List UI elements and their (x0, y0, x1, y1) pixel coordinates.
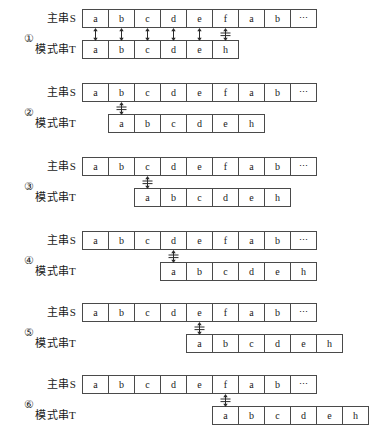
main-string-cell: a (83, 158, 109, 175)
main-string-cell: d (161, 232, 187, 249)
main-string-label: 主串S (14, 231, 76, 250)
main-string-cell: b (109, 232, 135, 249)
mismatch-arrow-icon (167, 250, 180, 263)
main-string-cell: d (161, 376, 187, 393)
main-string-cell: c (135, 304, 161, 321)
main-string-cell: a (83, 304, 109, 321)
pattern-string-cell: e (213, 115, 239, 132)
pattern-string-cell: e (291, 335, 317, 352)
pattern-string-cell: b (213, 335, 239, 352)
main-string-cell: d (161, 304, 187, 321)
main-string-cell: a (239, 158, 265, 175)
main-string-strip: abcdefab⋯ (82, 231, 317, 250)
pattern-string-cell: c (135, 41, 161, 58)
main-string-label: 主串S (14, 375, 76, 394)
main-string-strip: abcdefab⋯ (82, 9, 317, 28)
pattern-string-label: 模式串T (14, 114, 76, 133)
matching-step: ⑤主串S模式串Tabcdefab⋯abcdeh (0, 296, 364, 370)
main-string-cell: b (265, 232, 291, 249)
main-string-cell: ⋯ (291, 158, 317, 175)
pattern-string-cell: d (291, 407, 317, 424)
match-arrow-icon (167, 28, 180, 41)
matching-step: ④主串S模式串Tabcdefab⋯abcdeh (0, 224, 364, 298)
main-string-cell: c (135, 10, 161, 27)
pattern-string-cell: b (161, 189, 187, 206)
main-string-cell: a (83, 376, 109, 393)
main-string-cell: b (265, 304, 291, 321)
match-arrow-icon (89, 28, 102, 41)
match-arrow-icon (115, 28, 128, 41)
pattern-string-cell: h (213, 41, 239, 58)
pattern-string-cell: a (187, 335, 213, 352)
pattern-string-cell: d (265, 335, 291, 352)
pattern-string-cell: b (135, 115, 161, 132)
main-string-cell: ⋯ (291, 376, 317, 393)
main-string-cell: b (265, 84, 291, 101)
main-string-cell: f (213, 232, 239, 249)
main-string-strip: abcdefab⋯ (82, 157, 317, 176)
pattern-string-cell: e (187, 41, 213, 58)
main-string-cell: a (83, 232, 109, 249)
pattern-string-label: 模式串T (14, 188, 76, 207)
pattern-string-strip: abcdeh (160, 262, 317, 281)
main-string-cell: c (135, 84, 161, 101)
matching-step: ①主串S模式串Tabcdefab⋯abcdeh (0, 2, 364, 76)
mismatch-arrow-icon (141, 176, 154, 189)
pattern-string-cell: e (265, 263, 291, 280)
main-string-cell: e (187, 84, 213, 101)
main-string-cell: e (187, 232, 213, 249)
mismatch-arrow-icon (219, 394, 232, 407)
pattern-string-cell: h (291, 263, 317, 280)
main-string-strip: abcdefab⋯ (82, 303, 317, 322)
matching-step: ③主串S模式串Tabcdefab⋯abcdeh (0, 150, 364, 224)
pattern-string-cell: h (265, 189, 291, 206)
main-string-cell: c (135, 232, 161, 249)
pattern-string-cell: b (239, 407, 265, 424)
main-string-cell: a (239, 304, 265, 321)
main-string-cell: ⋯ (291, 10, 317, 27)
matching-step: ②主串S模式串Tabcdefab⋯abcdeh (0, 76, 364, 150)
main-string-cell: c (135, 158, 161, 175)
pattern-string-cell: b (187, 263, 213, 280)
main-string-cell: f (213, 376, 239, 393)
main-string-cell: e (187, 376, 213, 393)
pattern-string-cell: h (343, 407, 369, 424)
main-string-cell: e (187, 10, 213, 27)
main-string-strip: abcdefab⋯ (82, 83, 317, 102)
pattern-string-label: 模式串T (14, 406, 76, 425)
mismatch-arrow-icon (193, 322, 206, 335)
main-string-cell: e (187, 304, 213, 321)
pattern-string-cell: c (213, 263, 239, 280)
pattern-string-cell: d (161, 41, 187, 58)
pattern-string-strip: abcdeh (108, 114, 265, 133)
pattern-string-cell: d (239, 263, 265, 280)
main-string-label: 主串S (14, 157, 76, 176)
main-string-strip: abcdefab⋯ (82, 375, 317, 394)
pattern-string-cell: e (317, 407, 343, 424)
matching-step: ⑥主串S模式串Tabcdefab⋯abcdeh (0, 368, 364, 441)
main-string-cell: d (161, 158, 187, 175)
pattern-string-label: 模式串T (14, 334, 76, 353)
pattern-string-cell: b (109, 41, 135, 58)
main-string-cell: a (83, 84, 109, 101)
pattern-string-cell: c (187, 189, 213, 206)
main-string-cell: ⋯ (291, 84, 317, 101)
pattern-string-strip: abcdeh (212, 406, 369, 425)
pattern-string-strip: abcdeh (134, 188, 291, 207)
pattern-string-cell: c (265, 407, 291, 424)
main-string-cell: ⋯ (291, 232, 317, 249)
pattern-string-cell: a (161, 263, 187, 280)
pattern-string-cell: d (213, 189, 239, 206)
pattern-string-cell: a (83, 41, 109, 58)
main-string-cell: a (83, 10, 109, 27)
main-string-cell: b (109, 304, 135, 321)
main-string-label: 主串S (14, 83, 76, 102)
main-string-cell: f (213, 84, 239, 101)
main-string-cell: b (265, 10, 291, 27)
main-string-cell: a (239, 10, 265, 27)
main-string-cell: b (109, 10, 135, 27)
main-string-cell: d (161, 10, 187, 27)
pattern-string-cell: c (161, 115, 187, 132)
pattern-string-strip: abcdeh (82, 40, 239, 59)
